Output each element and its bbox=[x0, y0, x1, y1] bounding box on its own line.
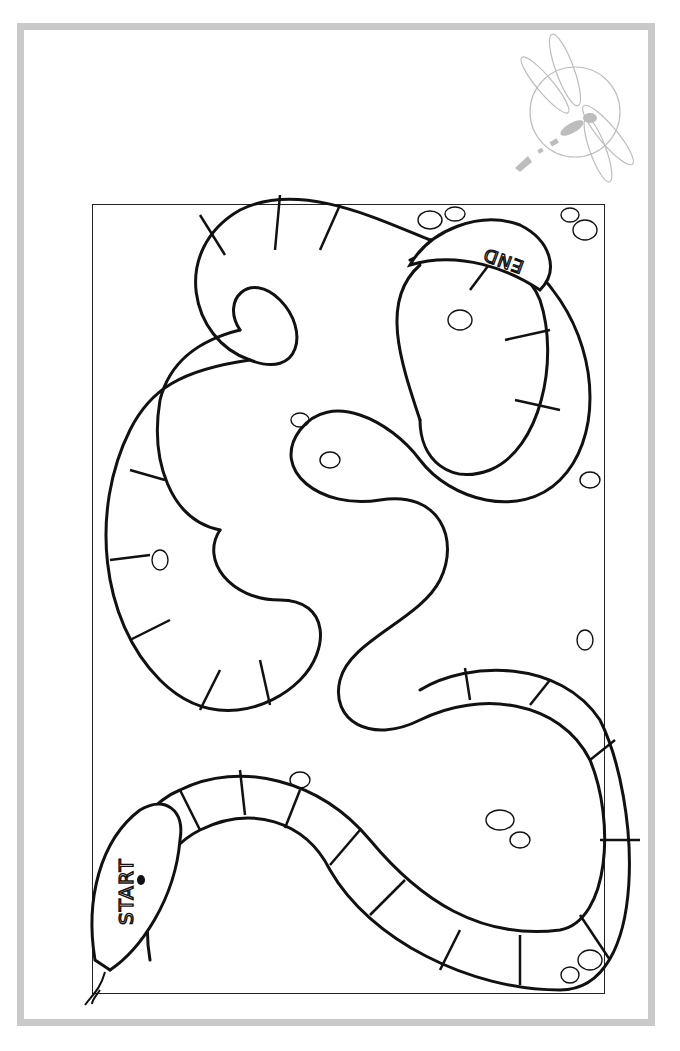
snake-board: END START bbox=[0, 0, 680, 1051]
rocks-decoration bbox=[152, 207, 602, 983]
dragonfly-icon bbox=[515, 31, 639, 184]
start-label: START bbox=[114, 858, 138, 925]
snake-head: START bbox=[85, 804, 181, 1005]
